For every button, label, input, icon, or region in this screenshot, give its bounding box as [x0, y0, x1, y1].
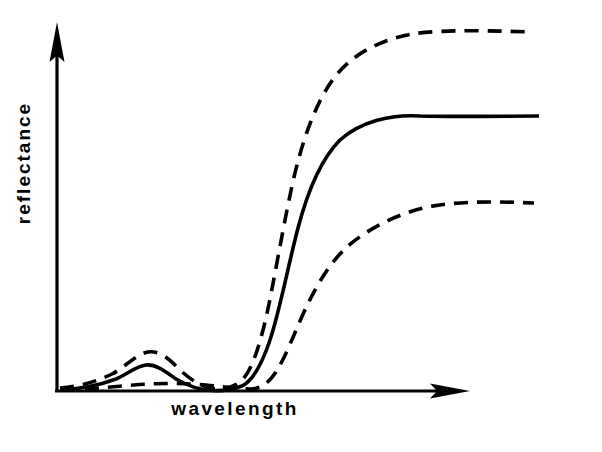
mean-curve [60, 116, 539, 391]
plot-area [0, 0, 602, 452]
y-axis-label-container: reflectance [13, 63, 35, 263]
y-axis [50, 22, 65, 392]
reflectance-spectrum-figure: wavelength reflectance [0, 0, 602, 452]
y-axis-label: reflectance [13, 102, 35, 224]
x-axis-label: wavelength [0, 398, 470, 420]
upper-bound-curve [60, 31, 533, 389]
